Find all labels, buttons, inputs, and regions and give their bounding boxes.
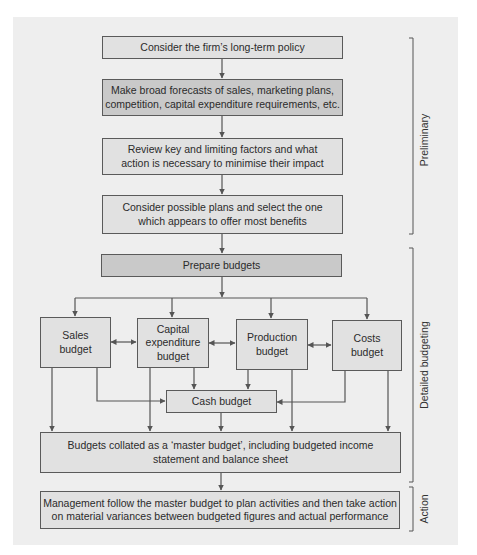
costs-budget-box: Costs budget — [332, 320, 402, 371]
detailed-budgeting-bracket — [409, 248, 413, 482]
preliminary-bracket — [409, 38, 413, 234]
management-action-box: Management follow the master budget to p… — [40, 491, 400, 529]
phase-label-action: Action — [418, 494, 430, 523]
phase-label-detailed-budgeting: Detailed budgeting — [418, 321, 430, 409]
production-budget-box: Production budget — [236, 319, 308, 370]
cash-budget-box: Cash budget — [166, 390, 277, 413]
phase-label-preliminary: Preliminary — [418, 114, 430, 167]
capital-expenditure-budget-box: Capital expenditure budget — [137, 318, 209, 368]
step-limiting-factors: Review key and limiting factors and what… — [102, 138, 343, 175]
step-broad-forecasts: Make broad forecasts of sales, marketing… — [102, 79, 343, 116]
action-bracket — [409, 487, 413, 531]
master-budget-box: Budgets collated as a ‘master budget’, i… — [40, 432, 401, 473]
step-long-term-policy: Consider the firm’s long-term policy — [102, 36, 343, 59]
step-prepare-budgets: Prepare budgets — [101, 254, 342, 277]
step-select-plan: Consider possible plans and select the o… — [102, 195, 343, 234]
sales-budget-box: Sales budget — [40, 317, 111, 368]
